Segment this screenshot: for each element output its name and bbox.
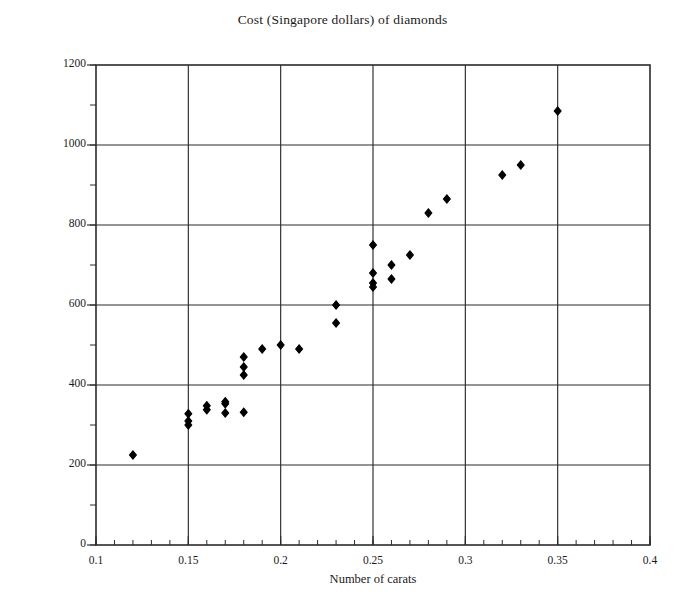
data-point-marker [425,209,432,217]
diamond-cost-scatter-figure: Cost (Singapore dollars) of diamonds Cos… [0,0,685,598]
data-point-marker [240,353,247,361]
data-point-marker [370,241,377,249]
plot-area [96,65,650,545]
x-tick-label: 0.4 [620,554,680,566]
data-point-marker [517,161,524,169]
data-point-marker [388,275,395,283]
x-tick-label: 0.3 [435,554,495,566]
y-tick-label: 1000 [30,137,86,149]
plot-svg [96,65,650,545]
y-tick-label: 600 [30,297,86,309]
y-tick-label: 1200 [30,57,86,69]
data-point-marker [370,269,377,277]
data-point-marker [222,409,229,417]
data-point-marker [240,408,247,416]
data-point-marker [388,261,395,269]
y-tick-label: 400 [30,377,86,389]
data-point-marker [259,345,266,353]
data-point-marker [296,345,303,353]
x-tick-label: 0.1 [66,554,126,566]
x-tick-label: 0.15 [158,554,218,566]
y-tick-label: 0 [30,537,86,549]
x-axis-title: Number of carats [96,572,650,587]
x-tick-label: 0.35 [528,554,588,566]
data-point-marker [240,371,247,379]
data-point-marker [554,107,561,115]
y-tick-label: 200 [30,457,86,469]
data-point-marker [333,301,340,309]
x-tick-label: 0.25 [343,554,403,566]
data-point-marker [443,195,450,203]
y-tick-label: 800 [30,217,86,229]
gridlines [96,65,650,545]
data-point-marker [277,341,284,349]
chart-title: Cost (Singapore dollars) of diamonds [0,12,685,28]
data-point-marker [129,451,136,459]
data-point-marker [406,251,413,259]
data-points [129,107,561,459]
x-tick-label: 0.2 [251,554,311,566]
data-point-marker [499,171,506,179]
data-point-marker [333,319,340,327]
